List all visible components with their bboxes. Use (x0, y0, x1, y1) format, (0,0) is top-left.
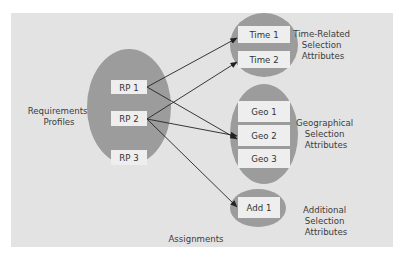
requirements-ellipse (87, 49, 171, 165)
time-box-2: Time 2 (238, 51, 290, 68)
additional-label: Additional Selection Attributes (303, 205, 349, 237)
geo-label-1: Geo 1 (251, 107, 276, 117)
rp-box-3: RP 3 (111, 150, 147, 165)
geo-label-2: Geo 2 (251, 131, 276, 141)
geo-label-line-3: Attributes (305, 140, 348, 150)
rp-box-2: RP 2 (111, 111, 147, 126)
assignments-label: Assignments (168, 234, 224, 244)
rp-box-1: RP 1 (111, 80, 147, 94)
rp-label-2: RP 2 (119, 114, 138, 124)
time-related-label: Time-Related Selection Attributes (292, 29, 353, 61)
rp-label-3: RP 3 (119, 153, 138, 163)
geo-box-2: Geo 2 (238, 125, 290, 146)
additional-label-line-1: Additional (303, 205, 346, 215)
geographical-label: Geographical Selection Attributes (296, 118, 356, 150)
additional-label-line-3: Attributes (305, 227, 348, 237)
time-box-1: Time 1 (238, 26, 290, 43)
time-label-line-3: Attributes (302, 51, 345, 61)
geo-label-3: Geo 3 (251, 154, 276, 164)
time-label-line-2: Selection (302, 40, 342, 50)
add-label-1: Add 1 (247, 203, 272, 213)
geo-label-line-1: Geographical (296, 118, 353, 128)
requirements-label-line-1: Requirements (28, 106, 88, 116)
time-label-2: Time 2 (248, 55, 278, 65)
requirements-label-line-2: Profiles (43, 117, 75, 127)
add-box-1: Add 1 (238, 197, 280, 218)
geo-label-line-2: Selection (305, 129, 345, 139)
geo-box-1: Geo 1 (238, 101, 290, 122)
time-label-1: Time 1 (248, 30, 278, 40)
rp-label-1: RP 1 (119, 83, 138, 93)
assignment-diagram: RP 1 RP 2 RP 3 Time 1 Time 2 Geo 1 Geo 2… (0, 0, 401, 256)
geo-box-3: Geo 3 (238, 149, 290, 168)
additional-label-line-2: Selection (305, 216, 345, 226)
time-label-line-1: Time-Related (292, 29, 350, 39)
